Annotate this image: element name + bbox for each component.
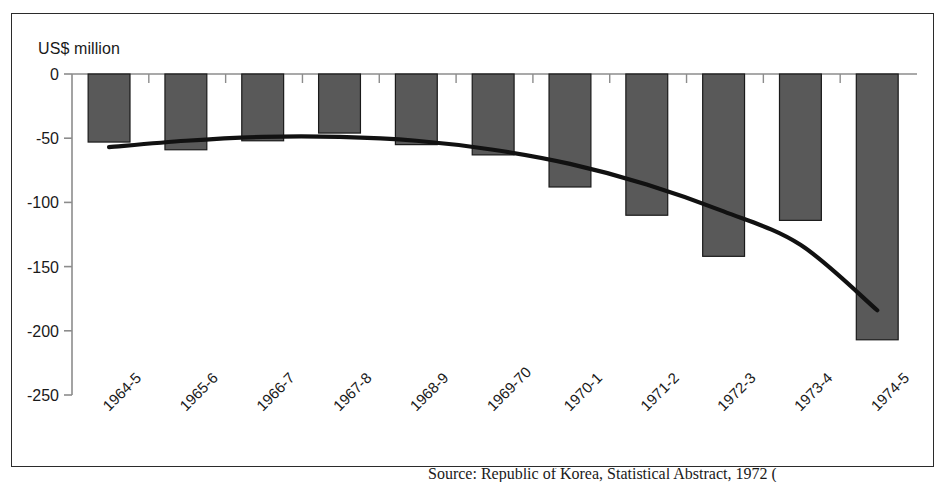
bar: [703, 74, 745, 256]
x-axis-category-label: 1965-6: [176, 369, 221, 414]
y-axis-tick-label: -150: [27, 259, 59, 276]
bar: [779, 74, 821, 220]
y-axis-tick-label: -100: [27, 194, 59, 211]
x-axis-category-label: 1969-70: [483, 363, 534, 414]
svg-text:1969-70: 1969-70: [483, 363, 534, 414]
x-axis-category-label: 1968-9: [406, 369, 451, 414]
x-axis-category-label: 1972-3: [714, 369, 759, 414]
bar: [88, 74, 130, 142]
figure-page: US$ million 0-50-100-150-200-2501964-519…: [0, 0, 949, 482]
svg-text:1974-5: 1974-5: [867, 369, 912, 414]
figure-caption-strip: Source: Republic of Korea, Statistical A…: [11, 468, 934, 482]
bar: [319, 74, 361, 133]
bar: [395, 74, 437, 145]
x-axis-category-label: 1974-5: [867, 369, 912, 414]
y-axis-tick-label: -50: [36, 130, 59, 147]
x-axis-category-label: 1970-1: [560, 369, 605, 414]
svg-text:1972-3: 1972-3: [714, 369, 759, 414]
svg-text:1970-1: 1970-1: [560, 369, 605, 414]
x-axis-category-label: 1971-2: [637, 369, 682, 414]
svg-text:1965-6: 1965-6: [176, 369, 221, 414]
bar: [472, 74, 514, 155]
x-axis-category-label: 1966-7: [253, 369, 298, 414]
trend-line: [109, 136, 877, 310]
svg-text:1971-2: 1971-2: [637, 369, 682, 414]
svg-text:1973-4: 1973-4: [791, 369, 836, 414]
svg-text:1964-5: 1964-5: [99, 369, 144, 414]
svg-text:1966-7: 1966-7: [253, 369, 298, 414]
chart-figure-frame: US$ million 0-50-100-150-200-2501964-519…: [11, 13, 934, 467]
bar: [856, 74, 898, 340]
svg-text:1968-9: 1968-9: [406, 369, 451, 414]
y-axis-tick-label: -250: [27, 387, 59, 404]
bar-chart-plot: 0-50-100-150-200-2501964-51965-61966-719…: [12, 14, 935, 468]
x-axis-category-label: 1973-4: [791, 369, 836, 414]
bar: [242, 74, 284, 141]
x-axis-category-label: 1967-8: [330, 369, 375, 414]
y-axis-tick-label: 0: [50, 66, 59, 83]
svg-text:1967-8: 1967-8: [330, 369, 375, 414]
bar: [626, 74, 668, 215]
bar: [549, 74, 591, 187]
x-axis-category-label: 1964-5: [99, 369, 144, 414]
y-axis-tick-label: -200: [27, 323, 59, 340]
figure-caption: Source: Republic of Korea, Statistical A…: [428, 468, 777, 482]
